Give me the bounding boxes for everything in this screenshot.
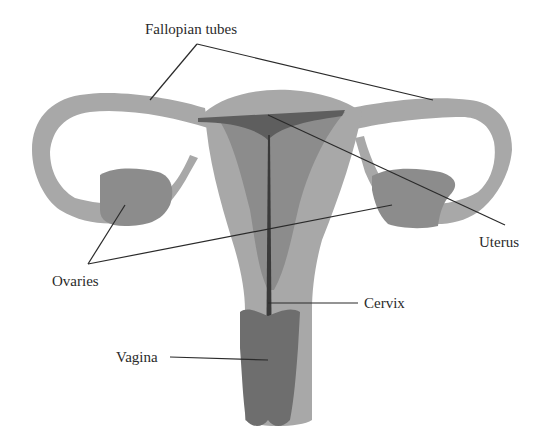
fallopian-leader-left xyxy=(150,44,197,100)
label-vagina: Vagina xyxy=(116,350,158,365)
fallopian-leader-right xyxy=(197,44,433,100)
label-ovaries: Ovaries xyxy=(52,274,99,289)
reproductive-system-diagram: Fallopian tubes Uterus Ovaries Cervix Va… xyxy=(0,0,557,442)
anatomy-illustration xyxy=(0,0,557,442)
label-fallopian-tubes: Fallopian tubes xyxy=(145,22,237,37)
label-cervix: Cervix xyxy=(364,296,405,311)
vagina-shape xyxy=(240,309,300,426)
left-ovary xyxy=(100,169,172,226)
label-uterus: Uterus xyxy=(479,235,519,250)
